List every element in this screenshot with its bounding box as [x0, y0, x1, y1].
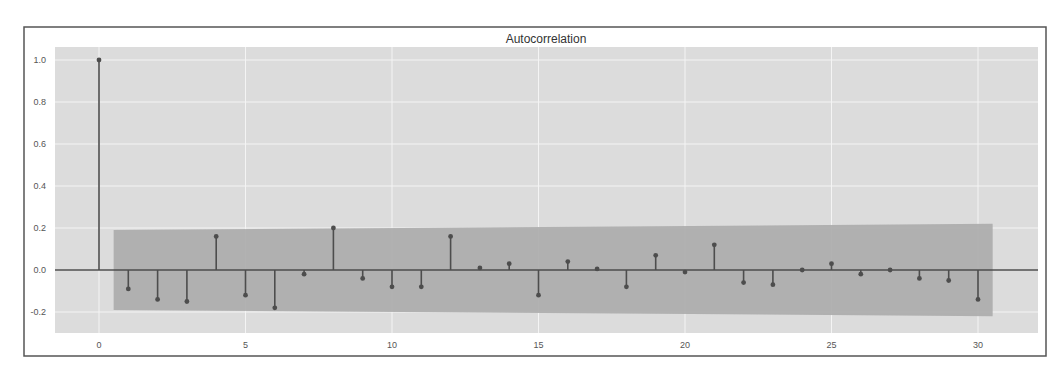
x-tick-label: 15 [533, 340, 543, 350]
y-tick-label: 0.6 [33, 139, 46, 149]
y-tick-label: 0.0 [33, 265, 46, 275]
plot-area [55, 47, 1038, 333]
x-tick-label: 0 [96, 340, 101, 350]
autocorrelation-figure: Autocorrelation 051015202530 -0.20.00.20… [0, 0, 1063, 375]
acf-stem-lag-20 [683, 270, 688, 275]
acf-stem-lag-24 [800, 268, 805, 273]
y-tick-label: 1.0 [33, 55, 46, 65]
y-tick-label: 0.8 [33, 97, 46, 107]
y-tick-label: -0.2 [30, 307, 46, 317]
x-tick-label: 5 [243, 340, 248, 350]
x-tick-label: 10 [387, 340, 397, 350]
y-tick-label: 0.4 [33, 181, 46, 191]
chart-title: Autocorrelation [506, 32, 587, 46]
acf-stem-lag-17 [595, 267, 600, 272]
x-tick-label: 20 [680, 340, 690, 350]
x-tick-label: 30 [973, 340, 983, 350]
acf-stem-lag-13 [478, 266, 483, 271]
x-tick-label: 25 [826, 340, 836, 350]
acf-stem-lag-27 [888, 268, 893, 273]
y-tick-label: 0.2 [33, 223, 46, 233]
